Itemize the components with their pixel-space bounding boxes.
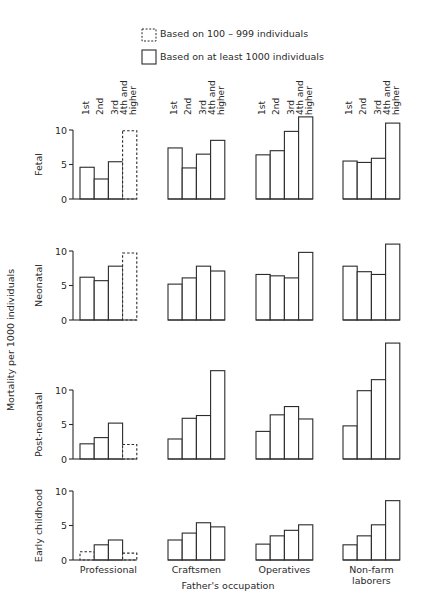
panel-label: Post-neonatal [33, 392, 44, 457]
bar [168, 540, 182, 560]
y-tick-label: 5 [61, 520, 67, 531]
bar [182, 168, 196, 199]
bar [196, 523, 210, 560]
bar [211, 371, 225, 459]
bar [123, 553, 137, 560]
y-tick-label: 10 [55, 385, 67, 396]
bar [94, 281, 108, 320]
bar [108, 540, 122, 560]
bar [108, 162, 122, 199]
bar [168, 148, 182, 199]
birth-order-label: 1st [344, 101, 354, 115]
bar [182, 418, 196, 459]
y-tick-label: 0 [61, 454, 67, 465]
birth-order-label: 2nd [95, 98, 105, 115]
group-label: Non-farm [349, 564, 394, 575]
group-label: laborers [352, 575, 391, 586]
panel-label: Neonatal [33, 264, 44, 307]
bar [211, 140, 225, 199]
birth-order-label: 1st [169, 101, 179, 115]
bar [108, 266, 122, 320]
bar [357, 536, 371, 560]
bar [108, 423, 122, 459]
birth-order-label: 2nd [271, 98, 281, 115]
bar [284, 530, 298, 560]
x-axis-label: Father's occupation [182, 580, 275, 591]
bar [182, 533, 196, 560]
legend-solid-swatch [142, 50, 156, 64]
birth-order-label: higher [216, 86, 226, 115]
y-tick-label: 5 [61, 419, 67, 430]
bar [386, 501, 400, 560]
bar [256, 431, 270, 459]
bar [343, 266, 357, 320]
panel-label: Fetal [33, 153, 44, 176]
bar [196, 154, 210, 199]
bar [270, 151, 284, 199]
bar [168, 439, 182, 459]
bar [211, 271, 225, 320]
bar [80, 552, 94, 560]
bar [386, 244, 400, 320]
bar [211, 527, 225, 560]
panel-early-childhood: 0510Early childhood [33, 486, 400, 566]
plot-area: 1st2nd3rd4th andhigher1st2nd3rd4th andhi… [33, 80, 401, 586]
y-axis-label: Mortality per 1000 individuals [5, 269, 16, 411]
y-tick-label: 10 [55, 125, 67, 136]
bar [343, 426, 357, 459]
bar [371, 525, 385, 560]
legend-dashed-label: Based on 100 – 999 individuals [160, 28, 308, 39]
bar [284, 278, 298, 320]
bar [299, 419, 313, 459]
bar [256, 274, 270, 320]
bar [299, 252, 313, 320]
birth-order-label: 1st [257, 101, 267, 115]
group-label: Craftsmen [172, 564, 221, 575]
birth-order-label: 2nd [358, 98, 368, 115]
bar [270, 415, 284, 459]
y-tick-label: 0 [61, 315, 67, 326]
bar [182, 278, 196, 320]
bar [256, 155, 270, 199]
panel-label: Early childhood [33, 489, 44, 562]
mortality-bar-chart: Based on 100 – 999 individuals Based on … [0, 0, 426, 608]
bar [168, 284, 182, 320]
bar [94, 179, 108, 199]
y-tick-label: 10 [55, 486, 67, 497]
bar [196, 266, 210, 320]
bar [94, 545, 108, 560]
bar [299, 525, 313, 560]
birth-order-label: 1st [81, 101, 91, 115]
y-tick-label: 5 [61, 280, 67, 291]
bar [256, 544, 270, 560]
panel-post-neonatal: 0510Post-neonatal [33, 343, 400, 464]
legend-dashed-swatch [142, 29, 156, 41]
bar [270, 276, 284, 320]
bar [371, 158, 385, 199]
birth-order-label: higher [304, 86, 314, 115]
bar [386, 343, 400, 459]
panel-neonatal: 0510Neonatal [33, 244, 400, 325]
bar [357, 272, 371, 320]
bar [357, 391, 371, 459]
bar [386, 123, 400, 199]
bar [371, 274, 385, 320]
group-label: Professional [80, 564, 137, 575]
bar [80, 444, 94, 459]
birth-order-label: 2nd [183, 98, 193, 115]
bar [284, 131, 298, 199]
bar [123, 253, 137, 320]
group-label: Operatives [258, 564, 310, 575]
bar [284, 407, 298, 459]
bar [343, 161, 357, 199]
bar [80, 277, 94, 320]
bar [343, 545, 357, 560]
bar [357, 162, 371, 199]
birth-order-label: higher [128, 86, 138, 115]
bar [371, 380, 385, 459]
y-tick-label: 5 [61, 159, 67, 170]
y-tick-label: 0 [61, 194, 67, 205]
legend: Based on 100 – 999 individuals Based on … [142, 28, 324, 64]
bar [123, 445, 137, 459]
bar [270, 536, 284, 560]
